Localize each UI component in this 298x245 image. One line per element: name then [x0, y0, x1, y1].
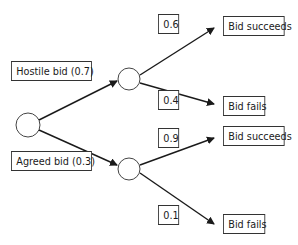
agreed-bid-node [118, 158, 140, 180]
hostile-bid-node [118, 68, 140, 90]
probability-hostile-succeeds: 0.6 [158, 14, 179, 34]
decision-tree-lines [0, 0, 298, 245]
hostile-succeeds-edge [140, 28, 214, 75]
agreed-bid-label: Agreed bid (0.3) [11, 151, 92, 171]
root-node [16, 113, 40, 137]
outcome-hostile-fails: Bid fails [223, 96, 265, 116]
outcome-hostile-succeeds: Bid succeeds [223, 16, 285, 36]
outcome-agreed-fails: Bid fails [223, 214, 265, 234]
probability-agreed-fails: 0.1 [158, 205, 179, 225]
hostile-bid-label: Hostile bid (0.7) [11, 61, 92, 81]
outcome-agreed-succeeds: Bid succeeds [223, 126, 285, 146]
probability-agreed-succeeds: 0.9 [158, 128, 179, 148]
hostile-bid-edge [39, 81, 117, 120]
probability-hostile-fails: 0.4 [158, 90, 179, 110]
